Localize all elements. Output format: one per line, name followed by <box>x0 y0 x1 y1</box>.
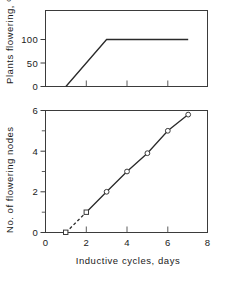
data-marker <box>104 189 109 194</box>
top-panel-ylabel: Plants flowering, % <box>4 0 15 84</box>
data-marker <box>145 151 150 156</box>
bottom-panel-dataline <box>86 115 188 213</box>
bottom-ytick-label-0: 0 <box>32 227 38 238</box>
data-marker <box>186 112 191 117</box>
data-marker <box>165 128 170 133</box>
top-ytick-label-100: 100 <box>21 34 38 45</box>
bottom-panel: 0 2 4 6 0 2 4 6 8 No. of flowering nodes… <box>4 105 210 266</box>
top-ytick-label-0: 0 <box>32 81 38 92</box>
bottom-ytick-label-2: 2 <box>32 186 38 197</box>
xtick-label-8: 8 <box>205 237 211 248</box>
top-panel: 0 50 100 Plants flowering, % <box>4 0 208 92</box>
chart-svg: 0 50 100 Plants flowering, % <box>0 0 226 283</box>
bottom-panel-xlabel: Inductive cycles, days <box>76 255 181 266</box>
top-ytick-label-50: 50 <box>27 58 38 69</box>
bottom-panel-ylabel: No. of flowering nodes <box>4 126 15 233</box>
bottom-panel-dashed-segment <box>66 212 86 232</box>
bottom-ytick-label-6: 6 <box>32 105 38 116</box>
xtick-label-4: 4 <box>124 237 130 248</box>
data-marker <box>84 210 88 214</box>
xtick-label-6: 6 <box>165 237 171 248</box>
xtick-label-2: 2 <box>84 237 90 248</box>
top-panel-dataline <box>66 40 188 87</box>
xtick-label-0: 0 <box>43 237 49 248</box>
figure-container: 0 50 100 Plants flowering, % <box>0 0 226 283</box>
data-marker <box>64 230 68 234</box>
top-panel-frame <box>46 11 208 87</box>
bottom-ytick-label-4: 4 <box>32 146 38 157</box>
data-marker <box>125 169 130 174</box>
